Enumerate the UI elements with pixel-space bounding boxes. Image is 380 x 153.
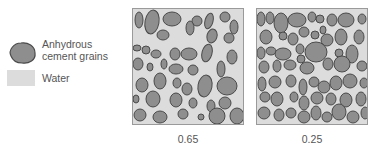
cement-grain	[273, 60, 281, 72]
cement-grain	[343, 74, 357, 88]
grain-field-sparse	[133, 9, 244, 125]
cement-grain	[269, 76, 281, 88]
cement-grain	[133, 95, 139, 103]
cement-grain	[161, 59, 167, 69]
cement-grain	[360, 78, 368, 88]
cement-grain	[224, 33, 234, 43]
cement-grain	[308, 12, 316, 22]
cement-grain	[230, 108, 244, 124]
legend-label-line2: cement grains	[42, 50, 108, 62]
cement-grain	[198, 114, 204, 120]
cement-grain	[260, 92, 270, 102]
cement-grain	[311, 106, 321, 120]
caption-low-wc-ratio: 0.25	[256, 133, 368, 145]
cement-grain	[151, 50, 161, 58]
cement-grain	[275, 48, 291, 60]
cement-grain	[299, 96, 309, 110]
cement-grain	[338, 13, 354, 27]
cement-grain	[286, 75, 296, 87]
cement-grain	[298, 111, 310, 123]
cement-grain	[173, 78, 181, 88]
cement-grain	[279, 32, 287, 40]
cement-grain	[147, 63, 153, 71]
cement-grain	[290, 92, 298, 102]
cement-grain	[356, 92, 366, 106]
cement-grain	[311, 92, 323, 104]
cement-grain	[297, 55, 305, 63]
cement-grain	[219, 97, 231, 109]
cement-grain	[347, 111, 359, 123]
cement-grain	[196, 74, 214, 98]
panel-high-wc-ratio	[132, 8, 244, 125]
cement-grain	[153, 111, 167, 123]
cement-grain	[178, 109, 188, 119]
cement-grain	[354, 30, 364, 44]
cement-grain	[203, 12, 215, 30]
cement-grain	[200, 43, 214, 63]
cement-grain	[334, 56, 350, 72]
cement-grain	[146, 91, 160, 107]
cement-grain	[230, 20, 238, 34]
cement-grain	[258, 107, 270, 119]
cement-grain	[271, 92, 283, 106]
cement-grain	[357, 61, 367, 71]
cement-grain	[134, 109, 146, 121]
cement-grain-legend-icon	[6, 40, 38, 66]
cement-grain	[299, 79, 307, 95]
cement-grain	[322, 112, 332, 122]
cement-grain	[299, 27, 309, 37]
cement-grain	[188, 65, 198, 75]
cement-grain	[316, 15, 324, 23]
cement-grain	[318, 81, 330, 93]
cement-grain	[335, 29, 347, 45]
cement-grain	[257, 12, 265, 26]
cement-grain	[259, 61, 269, 73]
cement-grain	[209, 108, 225, 124]
cement-grain	[157, 30, 169, 40]
caption-high-wc-ratio: 0.65	[132, 133, 244, 145]
cement-grain	[300, 62, 314, 74]
cement-grain	[136, 78, 148, 92]
cement-grain	[143, 9, 161, 35]
cement-grain	[257, 47, 265, 59]
cement-grain	[186, 21, 194, 35]
cement-grain	[133, 45, 141, 51]
cement-grain	[133, 58, 143, 70]
cement-grain	[142, 46, 150, 54]
water-legend-label: Water	[42, 72, 70, 84]
cement-grain	[217, 77, 237, 95]
cement-grain	[274, 13, 288, 33]
cement-grain	[288, 13, 306, 27]
cement-grain	[181, 48, 197, 60]
cement-grain	[227, 50, 237, 64]
water-legend-swatch	[7, 70, 35, 86]
cement-grain	[266, 47, 276, 55]
cement-grain	[205, 28, 218, 44]
cement-grain	[258, 77, 266, 91]
cement-grain	[217, 61, 225, 77]
cement-grain	[170, 48, 180, 60]
cement-grain	[330, 76, 342, 90]
cement-grain	[189, 98, 197, 108]
cement-grain	[182, 83, 192, 95]
cement-grain	[327, 14, 337, 26]
panel-low-wc-ratio	[256, 8, 368, 125]
cement-grain	[220, 12, 230, 22]
cement-grain	[358, 14, 366, 24]
cement-grain	[286, 108, 296, 118]
cement-grain	[332, 104, 346, 120]
cement-grain	[163, 12, 181, 26]
cement-grain	[274, 109, 284, 121]
cement-grain	[296, 44, 304, 54]
cement-grain	[266, 12, 274, 24]
cement-grain	[288, 33, 298, 45]
cement-grain	[361, 107, 368, 119]
cement-grain	[305, 42, 327, 62]
cement-grain	[311, 31, 319, 39]
cement-grain-legend-label: Anhydrous cement grains	[42, 38, 108, 62]
cement-grain	[154, 73, 166, 89]
cement-grain	[260, 30, 272, 44]
cement-grain	[135, 12, 143, 28]
cement-grain	[169, 64, 183, 74]
legend-label-line1: Anhydrous	[42, 38, 108, 50]
